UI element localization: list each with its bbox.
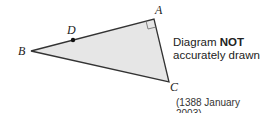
- label-a: A: [155, 3, 162, 18]
- note-line2: accurately drawn: [173, 49, 260, 61]
- label-c: C: [170, 80, 178, 95]
- point-d: [71, 38, 75, 42]
- triangle-abc: [31, 19, 169, 82]
- note-prefix: Diagram: [173, 36, 220, 48]
- note-bold: NOT: [220, 36, 244, 48]
- label-b: B: [18, 44, 25, 59]
- label-d: D: [67, 23, 76, 38]
- accuracy-note: Diagram NOT accurately drawn: [173, 36, 260, 62]
- source-reference: (1388 January 2003): [176, 97, 268, 113]
